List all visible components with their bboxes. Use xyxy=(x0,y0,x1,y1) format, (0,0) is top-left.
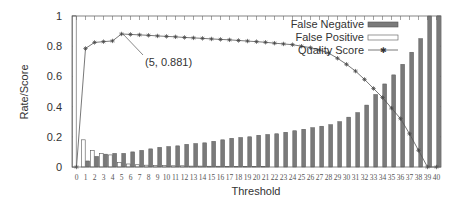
y-tick-label: 0.8 xyxy=(47,40,62,52)
annotation: (5, 0.881) xyxy=(123,34,192,68)
annotation-arrow xyxy=(123,34,143,55)
x-tick-label: 8 xyxy=(147,173,151,182)
bar-false-negative xyxy=(365,105,369,167)
quality-marker-asterisk-icon xyxy=(272,41,276,45)
bar-false-negative xyxy=(275,134,279,167)
quality-marker-asterisk-icon xyxy=(137,33,141,37)
x-tick-label: 13 xyxy=(190,173,198,182)
y-tick-label: 0.4 xyxy=(47,101,62,113)
quality-marker-asterisk-icon xyxy=(362,77,366,81)
x-tick-label: 7 xyxy=(138,173,142,182)
x-tick-label: 40 xyxy=(433,173,441,182)
x-tick-label: 16 xyxy=(217,173,225,182)
bar-false-negative xyxy=(239,138,243,167)
quality-marker-asterisk-icon xyxy=(416,148,420,152)
quality-marker-asterisk-icon xyxy=(164,34,168,38)
bar-false-negative xyxy=(302,129,306,167)
chart: 00.20.40.60.81 0123456789101112131415161… xyxy=(0,0,462,209)
x-tick-label: 9 xyxy=(156,173,160,182)
y-tick-label: 1 xyxy=(56,10,62,22)
quality-marker-asterisk-icon xyxy=(389,106,393,110)
x-tick-label: 25 xyxy=(298,173,306,182)
bar-false-positive xyxy=(117,162,121,167)
bar-false-negative xyxy=(140,150,144,167)
quality-marker-asterisk-icon xyxy=(218,37,222,41)
bar-false-negative xyxy=(284,132,288,167)
legend-label-false-negative: False Negative xyxy=(291,18,364,30)
bar-false-negative xyxy=(392,75,396,167)
bar-false-positive xyxy=(81,140,85,167)
bar-false-negative xyxy=(401,64,405,167)
bar-false-negative xyxy=(176,146,180,167)
y-tick-label: 0 xyxy=(56,161,62,173)
x-tick-label: 39 xyxy=(424,173,432,182)
bar-false-negative xyxy=(329,125,333,167)
quality-marker-asterisk-icon xyxy=(182,35,186,39)
bar-false-negative xyxy=(347,117,351,167)
quality-marker-asterisk-icon xyxy=(371,86,375,90)
bar-false-negative xyxy=(203,143,207,167)
quality-marker-asterisk-icon xyxy=(344,62,348,66)
bar-false-positive xyxy=(72,16,76,167)
bar-false-negative xyxy=(158,147,162,167)
x-tick-label: 17 xyxy=(226,173,234,182)
bar-false-negative xyxy=(194,144,198,167)
bar-false-negative xyxy=(167,147,171,167)
bar-false-positive xyxy=(90,150,94,167)
bar-false-negative xyxy=(320,126,324,167)
quality-marker-asterisk-icon xyxy=(155,34,159,38)
quality-marker-asterisk-icon xyxy=(101,39,105,43)
bar-false-negative xyxy=(428,16,432,167)
x-tick-label: 14 xyxy=(199,173,207,182)
quality-marker-asterisk-icon xyxy=(407,132,411,136)
bar-false-negative xyxy=(374,95,378,167)
bar-false-negative xyxy=(293,131,297,167)
x-tick-label: 36 xyxy=(397,173,405,182)
quality-marker-asterisk-icon xyxy=(263,40,267,44)
bar-false-negative xyxy=(248,137,252,167)
bar-false-negative xyxy=(410,52,414,167)
bar-false-negative xyxy=(113,153,117,167)
y-tick-label: 0.6 xyxy=(47,70,62,82)
quality-marker-asterisk-icon xyxy=(335,56,339,60)
x-tick-label: 30 xyxy=(343,173,351,182)
x-tick-label: 1 xyxy=(84,173,88,182)
x-tick-label: 33 xyxy=(370,173,378,182)
x-tick-label: 0 xyxy=(75,173,79,182)
x-tick-label: 34 xyxy=(379,173,387,182)
bar-false-negative xyxy=(104,154,108,167)
y-axis-ticks: 00.20.40.60.81 xyxy=(47,10,441,173)
quality-marker-asterisk-icon xyxy=(290,42,294,46)
bar-false-negative xyxy=(185,144,189,167)
quality-marker-asterisk-icon xyxy=(128,32,132,36)
legend-marker-asterisk-icon: ✱ xyxy=(380,46,387,55)
quality-marker-asterisk-icon xyxy=(83,46,87,50)
x-tick-label: 12 xyxy=(181,173,189,182)
quality-marker-asterisk-icon xyxy=(236,38,240,42)
x-tick-label: 5 xyxy=(120,173,124,182)
x-tick-label: 27 xyxy=(316,173,324,182)
quality-marker-asterisk-icon xyxy=(245,39,249,43)
annotation-label: (5, 0.881) xyxy=(145,56,192,68)
bar-false-negative xyxy=(437,16,441,167)
x-tick-label: 23 xyxy=(280,173,288,182)
x-tick-label: 37 xyxy=(406,173,414,182)
legend-label-false-positive: False Positive xyxy=(296,31,364,43)
bar-false-positive xyxy=(108,155,112,167)
quality-marker-asterisk-icon xyxy=(200,36,204,40)
legend: False Negative False Positive Quality Sc… xyxy=(291,18,398,56)
x-tick-label: 19 xyxy=(244,173,252,182)
quality-marker-asterisk-icon xyxy=(209,37,213,41)
x-tick-label: 6 xyxy=(129,173,133,182)
x-tick-label: 4 xyxy=(111,173,115,182)
x-tick-label: 11 xyxy=(172,173,179,182)
quality-marker-asterisk-icon xyxy=(92,40,96,44)
bar-false-negative xyxy=(149,149,153,167)
legend-label-quality-score: Quality Score xyxy=(298,44,364,56)
quality-marker-asterisk-icon xyxy=(227,38,231,42)
bar-false-positive xyxy=(126,164,130,167)
x-tick-label: 15 xyxy=(208,173,216,182)
bar-false-negative xyxy=(212,141,216,167)
quality-marker-asterisk-icon xyxy=(353,69,357,73)
x-tick-label: 26 xyxy=(307,173,315,182)
